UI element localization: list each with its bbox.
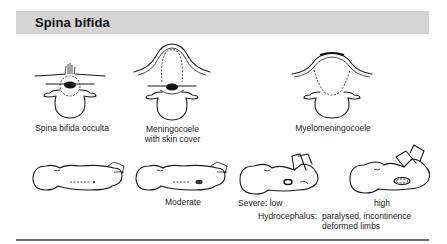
vertebra-myelomeningocoele-illustration: [290, 50, 375, 122]
caption-line2: deformed limbs: [322, 221, 380, 231]
infant-normal-illustration: [30, 158, 130, 196]
infant-severe-low-illustration: [236, 150, 336, 198]
label-occulta: Spina bifida occulta: [32, 123, 112, 133]
section-title: Spina bifida: [35, 15, 110, 30]
section-header: Spina bifida: [16, 11, 429, 34]
caption-line1: paralysed, incontinence: [322, 211, 411, 221]
label-meningocoele-line1: Meningocoele: [130, 124, 215, 134]
bottom-divider: [16, 239, 429, 241]
infant-moderate-illustration: [133, 158, 233, 196]
label-severe-high: high: [374, 198, 390, 208]
label-moderate: Moderate: [153, 197, 213, 207]
infant-severe-high-illustration: [344, 143, 444, 198]
label-severe-low: Severe: low: [238, 198, 282, 208]
label-meningocoele-line2: with skin cover: [130, 134, 215, 144]
label-meningocoele: Meningocoele with skin cover: [130, 124, 215, 144]
label-myelomeningocoele: Myelomeningocoele: [288, 123, 378, 133]
caption-hydrocephalus-prefix: Hydrocephalus:: [258, 211, 317, 221]
vertebra-meningocoele-illustration: [130, 42, 215, 124]
vertebra-occulta-illustration: [30, 60, 110, 122]
